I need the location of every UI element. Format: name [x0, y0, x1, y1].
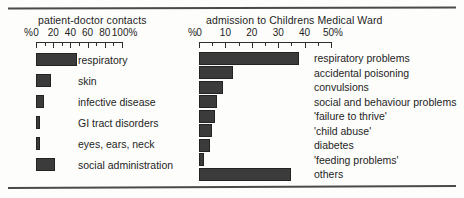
- bar: [199, 139, 210, 152]
- figure-bottom-rule: [8, 185, 456, 189]
- axis-tick: [45, 42, 46, 46]
- bar-label: social and behaviour problems: [314, 96, 456, 108]
- bar: [199, 110, 215, 123]
- axis-tick: [53, 42, 54, 48]
- axis-tick-label: 40: [299, 27, 310, 38]
- bar-row: diabetes: [188, 138, 460, 153]
- bar: [36, 158, 55, 171]
- bar-row: skin: [18, 72, 188, 93]
- bar-row: respiratory problems: [188, 51, 460, 66]
- axis-tick: [62, 42, 63, 46]
- bar-row: infective disease: [18, 93, 188, 114]
- bar: [199, 66, 233, 79]
- bar-label: diabetes: [314, 139, 354, 151]
- axis-tick: [122, 42, 123, 48]
- bar-row: 'failure to thrive': [188, 109, 460, 124]
- bar: [36, 116, 40, 129]
- axis-tick: [79, 42, 80, 46]
- chart-title-right: admission to Childrens Medical Ward: [188, 14, 460, 27]
- axis-tick: [265, 42, 266, 46]
- axis-tick: [278, 42, 279, 48]
- bar-row: social administration: [18, 156, 188, 177]
- bar-row: social and behaviour problems: [188, 95, 460, 110]
- plot-area-left: respiratoryskininfective diseaseGI tract…: [18, 51, 188, 177]
- bar-label: 'failure to thrive': [314, 110, 387, 122]
- bar-label: skin: [78, 75, 97, 87]
- bar-label: respiratory: [78, 54, 128, 66]
- axis-tick: [291, 42, 292, 46]
- bar: [199, 81, 223, 94]
- bar-row: convulsions: [188, 80, 460, 95]
- bar: [199, 124, 212, 137]
- bar-label: convulsions: [314, 81, 369, 93]
- axis-tick: [305, 42, 306, 48]
- axis-tick-label: 80: [99, 27, 110, 38]
- bar-row: 'feeding problems': [188, 153, 460, 168]
- chart-patient-doctor-contacts: patient-doctor contacts %020406080100% r…: [18, 14, 188, 177]
- axis-tick: [252, 42, 253, 48]
- bar-label: social administration: [78, 159, 173, 171]
- bar: [199, 95, 217, 108]
- axis-tick: [88, 42, 89, 48]
- bar-row: eyes, ears, neck: [18, 135, 188, 156]
- axis-tick-label: 40: [65, 27, 76, 38]
- plot-area-right: respiratory problemsaccidental poisoning…: [188, 51, 460, 182]
- axis-tick: [225, 42, 226, 48]
- axis-tick-label: 10: [220, 27, 231, 38]
- axis-tick: [318, 42, 319, 46]
- bar-label: accidental poisoning: [314, 67, 409, 79]
- bar: [36, 74, 51, 87]
- bar-row: GI tract disorders: [18, 114, 188, 135]
- axis-tick-label: 0: [33, 27, 39, 38]
- bar-label: others: [314, 168, 343, 180]
- axis-tick: [331, 42, 332, 48]
- axis-tick-label: 0: [196, 27, 202, 38]
- bar: [199, 153, 204, 166]
- bar: [36, 95, 44, 108]
- bar-label: respiratory problems: [314, 52, 410, 64]
- bar-row: respiratory: [18, 51, 188, 72]
- axis-tick-label: 100%: [112, 27, 138, 38]
- chart-title-left: patient-doctor contacts: [18, 14, 188, 27]
- bar-label: infective disease: [78, 96, 156, 108]
- bar-label: 'feeding problems': [314, 154, 399, 166]
- axis-tick: [96, 42, 97, 46]
- axis-tick-label: 50%: [323, 27, 343, 38]
- bar-row: accidental poisoning: [188, 66, 460, 81]
- bar-label: GI tract disorders: [78, 117, 159, 129]
- figure-top-rule: [8, 7, 456, 10]
- axis-tick: [105, 42, 106, 48]
- axis-tick-label: 60: [82, 27, 93, 38]
- bar: [36, 53, 77, 66]
- bar-row: others: [188, 167, 460, 182]
- axis-tick: [212, 42, 213, 46]
- bar: [199, 52, 299, 65]
- bar-label: eyes, ears, neck: [78, 138, 154, 150]
- bar-label: 'child abuse': [314, 125, 371, 137]
- axis-left: %020406080100%: [18, 27, 188, 51]
- axis-tick: [239, 42, 240, 46]
- axis-tick: [70, 42, 71, 48]
- axis-tick: [36, 42, 37, 48]
- axis-right: %01020304050%: [188, 27, 460, 51]
- axis-tick-label: 20: [48, 27, 59, 38]
- bar-row: 'child abuse': [188, 124, 460, 139]
- axis-tick-label: 30: [273, 27, 284, 38]
- axis-tick: [199, 42, 200, 48]
- chart-childrens-medical-ward: admission to Childrens Medical Ward %010…: [188, 14, 460, 182]
- axis-tick-label: 20: [246, 27, 257, 38]
- figure-container: patient-doctor contacts %020406080100% r…: [0, 0, 464, 198]
- axis-unit-prefix: %: [24, 27, 33, 38]
- axis-tick: [113, 42, 114, 46]
- bar: [36, 137, 40, 150]
- bar: [199, 168, 291, 181]
